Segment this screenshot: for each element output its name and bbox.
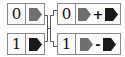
gray-block-icon <box>78 8 91 21</box>
output-box-1[interactable]: 1 - <box>57 33 121 55</box>
black-block-icon <box>103 38 116 51</box>
input-index-label: 0 <box>8 4 26 24</box>
output-expression: + <box>76 4 120 24</box>
output-box-0[interactable]: 0 + <box>57 3 121 25</box>
plus-operator: + <box>93 8 104 21</box>
gray-block-icon <box>29 8 42 21</box>
output-index-label: 0 <box>58 4 76 24</box>
input-index-label: 1 <box>8 34 26 54</box>
input-block-cell <box>26 34 44 54</box>
gray-block-icon <box>80 38 93 51</box>
output-index-label: 1 <box>58 34 76 54</box>
input-box-0[interactable]: 0 <box>7 3 45 25</box>
output-expression: - <box>76 34 120 54</box>
input-box-1[interactable]: 1 <box>7 33 45 55</box>
black-block-icon <box>105 8 118 21</box>
black-block-icon <box>29 38 42 51</box>
minus-operator: - <box>95 38 100 51</box>
input-block-cell <box>26 4 44 24</box>
